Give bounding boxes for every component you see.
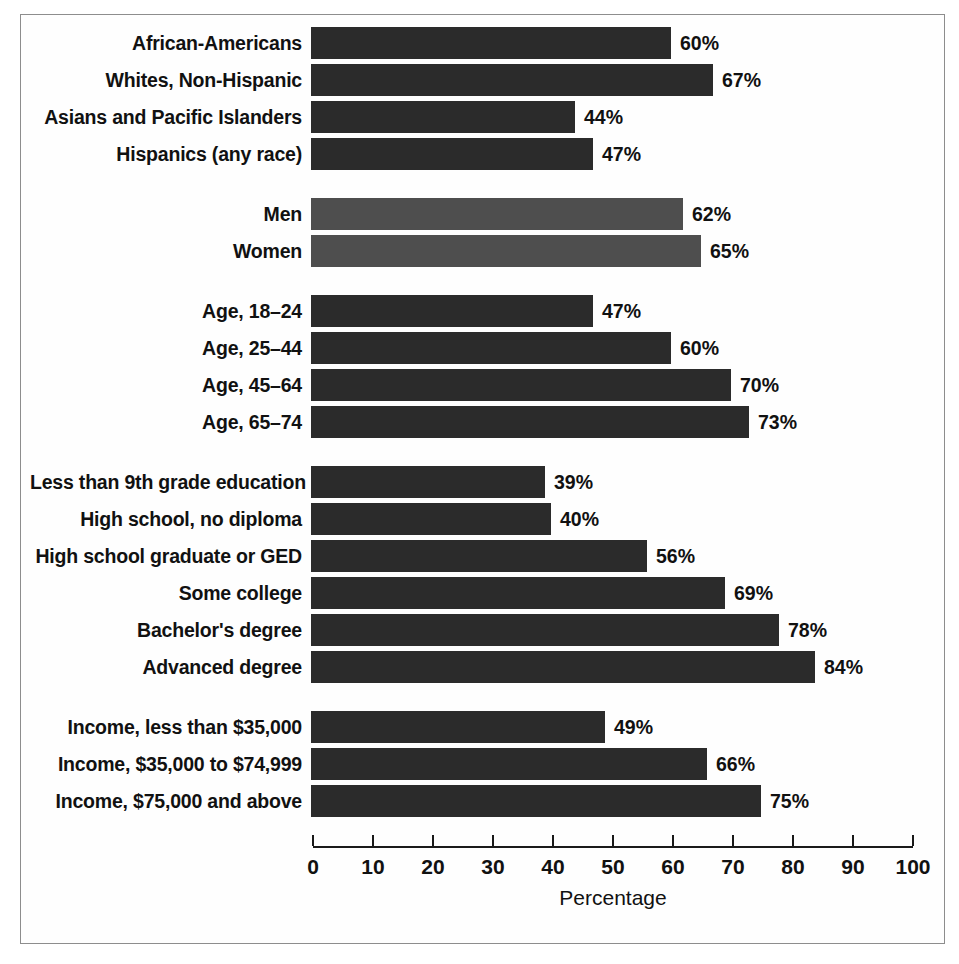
bar-row: Less than 9th grade education39% [0,466,959,498]
bar-row: Income, $35,000 to $74,99966% [0,748,959,780]
x-axis-tick [432,835,434,846]
plot-area: African-Americans60%Whites, Non-Hispanic… [0,0,959,964]
category-label: Whites, Non-Hispanic [30,64,302,96]
x-axis-tick-label: 0 [283,854,343,880]
x-axis-title: Percentage [313,886,913,910]
bar-value-label: 49% [614,711,653,743]
bar-row: Age, 45–6470% [0,369,959,401]
bar-value-label: 75% [770,785,809,817]
bar-value-label: 39% [554,466,593,498]
bar [311,198,683,230]
x-axis-tick [732,835,734,846]
x-axis-tick-label: 50 [583,854,643,880]
x-axis-tick-label: 70 [703,854,763,880]
x-axis-tick-label: 80 [763,854,823,880]
category-label: Income, $35,000 to $74,999 [30,748,302,780]
bar [311,64,713,96]
category-label: Advanced degree [30,651,302,683]
bar [311,369,731,401]
x-axis-tick [912,835,914,846]
x-axis-tick [672,835,674,846]
category-label: Men [30,198,302,230]
x-axis-tick [372,835,374,846]
x-axis-tick [792,835,794,846]
x-axis-tick [852,835,854,846]
category-label: Bachelor's degree [30,614,302,646]
bar-row: Bachelor's degree78% [0,614,959,646]
category-label: Age, 45–64 [30,369,302,401]
bar-value-label: 67% [722,64,761,96]
bar-value-label: 66% [716,748,755,780]
bar-row: Women65% [0,235,959,267]
bar-value-label: 62% [692,198,731,230]
bar [311,406,749,438]
category-label: Some college [30,577,302,609]
bar [311,577,725,609]
bar-row: African-Americans60% [0,27,959,59]
x-axis-tick-label: 10 [343,854,403,880]
bar-value-label: 73% [758,406,797,438]
bar-row: High school, no diploma40% [0,503,959,535]
category-label: Asians and Pacific Islanders [30,101,302,133]
bar-value-label: 78% [788,614,827,646]
bar [311,540,647,572]
bar-row: High school graduate or GED56% [0,540,959,572]
category-label: High school, no diploma [30,503,302,535]
bar-row: Whites, Non-Hispanic67% [0,64,959,96]
bar-row: Age, 18–2447% [0,295,959,327]
chart-figure: African-Americans60%Whites, Non-Hispanic… [0,0,959,964]
bar-row: Income, $75,000 and above75% [0,785,959,817]
bar [311,466,545,498]
bar-value-label: 60% [680,332,719,364]
x-axis-tick-label: 20 [403,854,463,880]
bar-value-label: 40% [560,503,599,535]
bar-value-label: 60% [680,27,719,59]
bar-row: Some college69% [0,577,959,609]
category-label: Age, 65–74 [30,406,302,438]
bar-row: Asians and Pacific Islanders44% [0,101,959,133]
category-label: African-Americans [30,27,302,59]
bar-value-label: 70% [740,369,779,401]
bar [311,711,605,743]
x-axis-tick-label: 100 [883,854,943,880]
category-label: Hispanics (any race) [30,138,302,170]
x-axis-tick-label: 60 [643,854,703,880]
category-label: High school graduate or GED [30,540,302,572]
x-axis-tick-label: 90 [823,854,883,880]
bar [311,748,707,780]
bar-value-label: 47% [602,295,641,327]
bar-row: Hispanics (any race)47% [0,138,959,170]
category-label: Women [30,235,302,267]
bar-row: Men62% [0,198,959,230]
category-label: Age, 18–24 [30,295,302,327]
bar-row: Advanced degree84% [0,651,959,683]
category-label: Income, $75,000 and above [30,785,302,817]
bar-value-label: 69% [734,577,773,609]
x-axis-tick [612,835,614,846]
bar [311,27,671,59]
bar-value-label: 84% [824,651,863,683]
bar [311,785,761,817]
bar [311,235,701,267]
bar-value-label: 44% [584,101,623,133]
x-axis-tick-label: 30 [463,854,523,880]
bar [311,138,593,170]
bar-value-label: 47% [602,138,641,170]
bar-row: Age, 25–4460% [0,332,959,364]
x-axis-line [313,846,913,848]
bar [311,651,815,683]
bar-row: Age, 65–7473% [0,406,959,438]
x-axis-tick-label: 40 [523,854,583,880]
bar [311,614,779,646]
bar [311,503,551,535]
x-axis-tick [312,835,314,846]
bar-value-label: 65% [710,235,749,267]
bar-row: Income, less than $35,00049% [0,711,959,743]
x-axis-tick [492,835,494,846]
category-label: Age, 25–44 [30,332,302,364]
bar-value-label: 56% [656,540,695,572]
x-axis-tick [552,835,554,846]
bar [311,295,593,327]
category-label: Income, less than $35,000 [30,711,302,743]
category-label: Less than 9th grade education [30,466,302,498]
